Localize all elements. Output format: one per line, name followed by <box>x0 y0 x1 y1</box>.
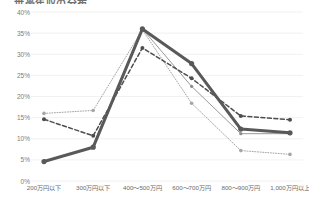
data-point-marker <box>239 114 243 118</box>
series-line <box>44 29 290 162</box>
x-axis: 200万円以下300万円以下400～500万円600～700万円800～900万… <box>0 184 309 198</box>
data-point-marker <box>91 145 96 150</box>
data-point-marker <box>288 153 292 157</box>
data-point-marker <box>140 26 145 31</box>
data-point-marker <box>41 159 46 164</box>
series-line <box>44 48 290 136</box>
data-point-marker <box>190 76 194 80</box>
data-point-marker <box>190 101 194 105</box>
data-point-marker <box>239 132 242 135</box>
data-point-marker <box>238 126 243 131</box>
data-point-marker <box>42 112 46 116</box>
data-point-marker <box>287 130 292 135</box>
x-axis-tick-label: 400～500万円 <box>123 184 162 192</box>
data-point-marker <box>140 46 144 50</box>
x-axis-tick-label: 200万円以下 <box>27 184 61 192</box>
series-line <box>44 29 290 162</box>
x-axis-tick-label: 1,000万円以上 <box>270 184 309 192</box>
x-axis-tick-label: 300万円以下 <box>76 184 110 192</box>
plot-area <box>0 0 309 201</box>
data-point-marker <box>42 117 46 121</box>
data-point-marker <box>288 118 292 122</box>
data-point-marker <box>91 109 95 113</box>
series-line <box>44 30 290 155</box>
chart-container: 世帯年収の分布 40%35%30%25%20%15%10%5%0% 200万円以… <box>0 0 309 201</box>
data-point-marker <box>189 61 194 66</box>
data-point-marker <box>239 149 243 153</box>
data-point-marker <box>190 85 193 88</box>
data-point-marker <box>91 134 95 138</box>
x-axis-tick-label: 600～700万円 <box>172 184 211 192</box>
x-axis-tick-label: 800～900万円 <box>221 184 260 192</box>
